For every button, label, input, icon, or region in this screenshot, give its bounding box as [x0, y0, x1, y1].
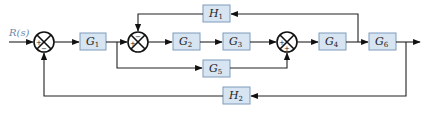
wire-g5-s3 — [230, 53, 287, 68]
block-g2: G2 — [173, 33, 200, 50]
s2-sign-left: + — [130, 40, 136, 48]
summing-junction-3: + + — [277, 32, 297, 53]
s2-sign-top: − — [135, 33, 141, 41]
block-h2: H2 — [223, 87, 250, 104]
s1-sign-bottom: − — [41, 45, 47, 53]
wire-h1-s2 — [138, 14, 203, 31]
summing-junction-1: + − — [34, 32, 54, 53]
block-h1: H1 — [203, 5, 230, 22]
block-g6: G6 — [369, 33, 396, 50]
block-g1: G1 — [80, 33, 106, 50]
block-g3: G3 — [223, 33, 250, 50]
summing-junction-2: + − — [128, 32, 148, 52]
input-label: R(s) — [8, 27, 30, 38]
block-g5: G5 — [203, 60, 230, 77]
block-g4: G4 — [319, 33, 346, 50]
wire-h2-s1 — [44, 53, 223, 96]
s3-sign-bottom: + — [284, 45, 290, 53]
block-diagram: R(s) + − G1 G5 + − G2 — [0, 0, 428, 114]
